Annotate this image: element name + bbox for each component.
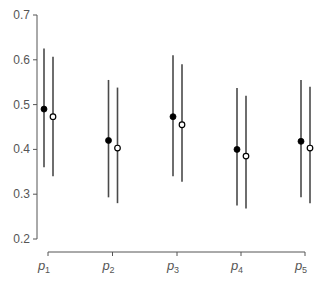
open-point-marker [179, 122, 185, 128]
y-tick-label: 0.2 [13, 232, 30, 246]
open-point-marker [307, 145, 313, 151]
x-tick-label-p3: p3 [166, 258, 179, 275]
y-tick-label: 0.3 [13, 187, 30, 201]
y-tick-label: 0.6 [13, 53, 30, 67]
filled-point-marker [234, 146, 240, 152]
series-filled [41, 49, 304, 206]
filled-point-marker [298, 138, 304, 144]
x-tick-label-p4: p4 [230, 258, 243, 275]
chart: 0.20.30.40.50.60.7 p1p2p3p4p5 [0, 0, 327, 283]
filled-point-marker [170, 114, 176, 120]
series-open [50, 57, 313, 209]
y-axis: 0.20.30.40.50.60.7 [13, 8, 37, 246]
open-point-marker [50, 114, 56, 120]
open-point-marker [243, 153, 249, 159]
x-axis: p1p2p3p4p5 [37, 252, 307, 275]
y-tick-label: 0.4 [13, 142, 30, 156]
filled-point-marker [41, 106, 47, 112]
y-tick-label: 0.5 [13, 98, 30, 112]
y-tick-label: 0.7 [13, 8, 30, 22]
plot-series [41, 49, 313, 209]
x-tick-label-p5: p5 [294, 258, 307, 275]
filled-point-marker [106, 137, 112, 143]
open-point-marker [115, 145, 121, 151]
x-tick-label-p1: p1 [37, 258, 50, 275]
x-tick-label-p2: p2 [101, 258, 114, 275]
